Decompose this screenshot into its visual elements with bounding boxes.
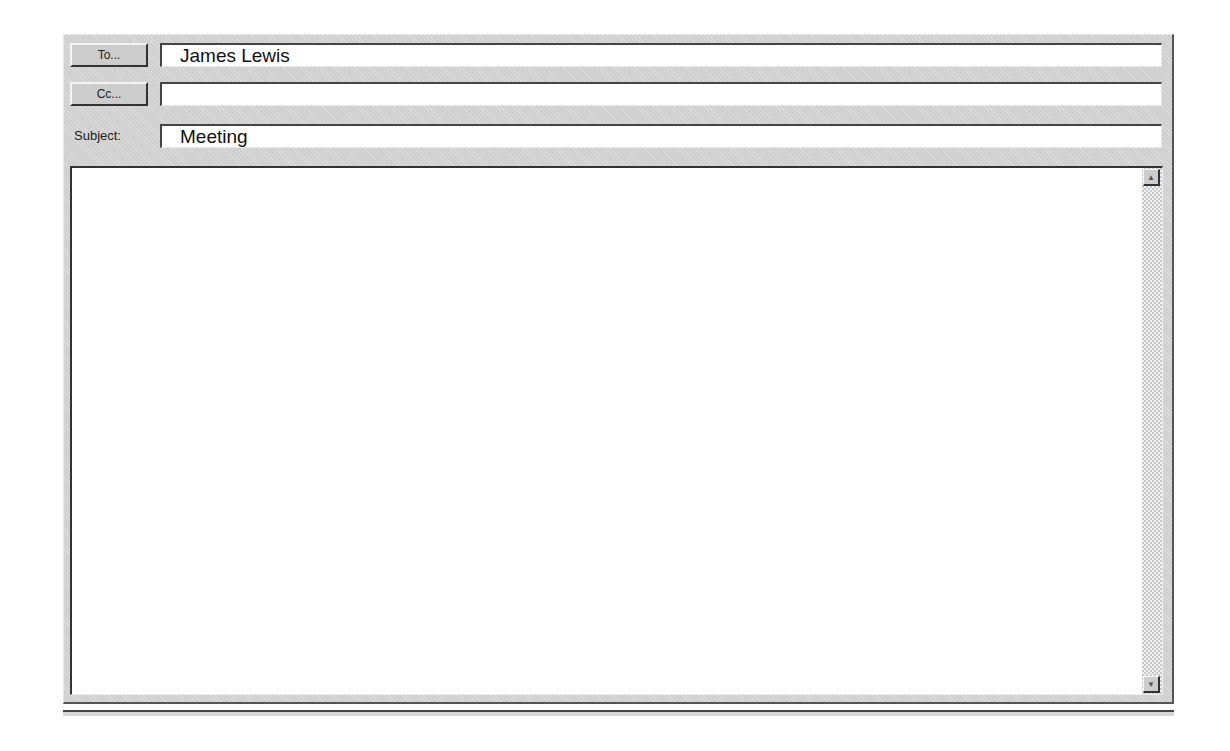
cc-row: Cc... [68, 82, 1162, 108]
cc-button-label: Cc... [97, 87, 122, 101]
message-body[interactable]: ▲ ▼ [70, 166, 1163, 695]
to-field[interactable]: James Lewis [160, 43, 1162, 67]
arrow-up-icon: ▲ [1147, 173, 1155, 182]
vertical-scrollbar[interactable]: ▲ ▼ [1142, 168, 1162, 694]
window-bottom-edge [63, 710, 1174, 716]
to-row: To... James Lewis [68, 43, 1162, 69]
scroll-up-button[interactable]: ▲ [1143, 169, 1160, 186]
subject-field[interactable]: Meeting [160, 124, 1162, 148]
to-button-label: To... [98, 48, 121, 62]
cc-field[interactable] [160, 82, 1162, 106]
subject-row: Subject: Meeting [68, 124, 1162, 150]
to-button[interactable]: To... [70, 43, 148, 67]
arrow-down-icon: ▼ [1147, 680, 1155, 689]
cc-button[interactable]: Cc... [70, 82, 148, 106]
scroll-down-button[interactable]: ▼ [1143, 676, 1160, 693]
message-compose-frame: To... James Lewis Cc... Subject: Meeting… [63, 34, 1174, 704]
subject-label: Subject: [74, 128, 121, 143]
